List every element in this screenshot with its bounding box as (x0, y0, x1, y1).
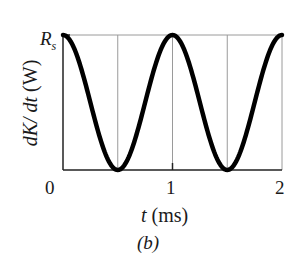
figure-caption: (b) (137, 233, 159, 252)
x-tick-label-2: 2 (275, 178, 285, 197)
x-tick-label-1: 1 (166, 178, 176, 197)
x-axis-label: t (ms) (141, 205, 188, 225)
y-axis-label: dK/ dt (W) (19, 60, 42, 147)
x-tick-label-0: 0 (45, 178, 55, 197)
grid-lines (63, 35, 282, 170)
y-tick-top-label: Rs (40, 29, 56, 52)
